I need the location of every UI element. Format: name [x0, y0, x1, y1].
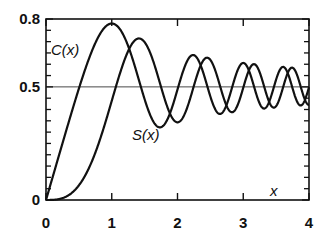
x-tick-label: 1	[108, 214, 116, 231]
label-c-of-x: C(x)	[51, 41, 79, 58]
series-s-of-x	[46, 38, 309, 200]
y-tick-label: 0.5	[19, 78, 40, 95]
x-tick-label: 0	[42, 214, 50, 231]
fresnel-chart: 0123400.50.8 C(x) S(x) x	[0, 0, 324, 247]
y-tick-label: 0.8	[19, 10, 40, 27]
x-axis-label: x	[269, 182, 278, 199]
label-s-of-x: S(x)	[132, 126, 160, 143]
x-tick-label: 3	[239, 214, 247, 231]
y-tick-label: 0	[32, 191, 40, 208]
x-tick-label: 4	[305, 214, 314, 231]
x-tick-label: 2	[173, 214, 181, 231]
curves	[46, 24, 309, 200]
